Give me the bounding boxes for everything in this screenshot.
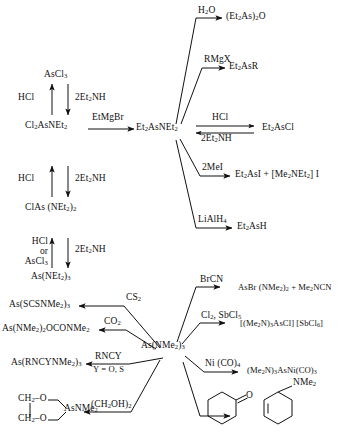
node-ascl3: AsCl3	[44, 70, 67, 80]
product-arsonium-hexachloroantimonate: [(Me2N)3AsCl] [SbCl6]	[240, 319, 323, 329]
node-as-nme2-3: As(NMe2)3	[141, 341, 185, 351]
reagent-rncy: RNCY	[95, 352, 122, 362]
reagent-hcl-2: HCl	[18, 174, 34, 184]
reagent-co2: CO2	[104, 317, 121, 327]
reagent-cl2-sbcl5: Cl2, SbCl5	[201, 311, 241, 321]
reagent-lialh4: LiAlH4	[198, 215, 227, 225]
reagent-rmgx: RMgX	[204, 55, 231, 65]
reagent-rncy-condition: Y = O, S	[93, 365, 124, 374]
node-clas-net2-2: ClAs (NEt2)2	[25, 203, 76, 213]
product-et2ash: Et2AsH	[237, 222, 267, 232]
product-asbr-nme2-2-plus-me2ncn: AsBr (NMe2)2 + Me2NCN	[238, 283, 332, 293]
reaction-scheme-figure: AsCl3 Cl2AsNEt2 ClAs (NEt2)2 As(NEt2)3 H…	[0, 0, 360, 448]
node-as-net2-3: As(NEt2)3	[31, 272, 71, 282]
node-et2asnet2: Et2AsNEt2	[136, 123, 178, 133]
enamine-nme2-label: NMe2	[293, 378, 316, 388]
product-et2asr: Et2AsR	[229, 62, 258, 72]
product-arsine-nickel-tricarbonyl: (Me2N)3AsNi(CO)3	[247, 366, 317, 376]
reagent-2et2nh-2: 2Et2NH	[75, 174, 106, 184]
product-et2asi-salt: Et2AsI + [Me2NEt2] I	[235, 170, 319, 180]
reagent-h2o: H2O	[198, 6, 215, 16]
dioxarsolane-ch2-bottom: CH2–O	[18, 414, 47, 424]
reagent-hcl-1: HCl	[18, 93, 34, 103]
reagent-2et2nh-3: 2Et2NH	[75, 245, 106, 255]
reagent-hcl-forward: HCl	[212, 113, 228, 123]
product-as-rncynme2-3: As(RNCYNMe2)3	[11, 358, 82, 368]
cyclohexanone-oxygen-label: O	[246, 391, 253, 401]
reagent-brcn: BrCN	[200, 275, 223, 285]
reagent-etmgbr: EtMgBr	[92, 113, 124, 123]
product-as-nme2-2-oconme2: As(NMe2)2OCONMe2	[2, 324, 90, 334]
product-as-scsnme2-3: As(SCSNMe2)3	[9, 300, 70, 310]
reagent-2mei: 2MeI	[202, 163, 223, 173]
reagent-ascl3-3: AsCl3	[8, 257, 48, 267]
product-et2as-2-o: (Et2As)2O	[226, 12, 266, 22]
reagent-ni-co-4: Ni (CO)4	[205, 359, 241, 369]
reagent-2et2nh-reverse: 2Et2NH	[201, 134, 232, 144]
reagent-cs2: CS2	[126, 293, 141, 303]
product-et2ascl: Et2AsCl	[262, 123, 294, 133]
dioxarsolane-ch2-top: CH2–O	[18, 394, 47, 404]
reagent-2et2nh-1: 2Et2NH	[75, 93, 106, 103]
node-cl2asnet2: Cl2AsNEt2	[25, 121, 67, 131]
dioxarsolane-asnme2: AsNMe2	[64, 404, 98, 414]
